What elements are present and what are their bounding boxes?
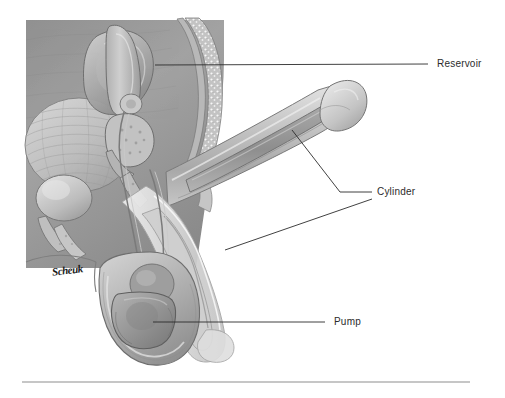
penile-prosthesis-illustration [0,0,505,398]
label-reservoir: Reservoir [437,59,482,69]
label-cylinder: Cylinder [377,187,415,197]
label-pump: Pump [334,317,361,327]
pump-device [112,292,176,349]
